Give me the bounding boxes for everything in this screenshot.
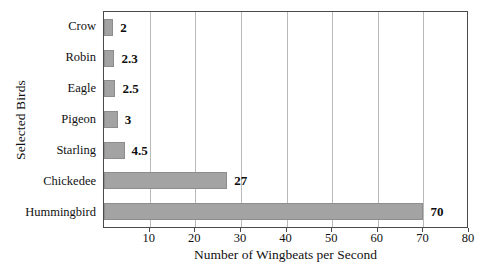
category-label: Starling [56, 144, 96, 157]
category-label: Hummingbird [25, 206, 96, 219]
x-tick-label: 80 [462, 232, 475, 245]
bar-value-label: 2.3 [121, 52, 137, 65]
x-tick-label: 20 [188, 232, 201, 245]
bar [104, 19, 113, 36]
category-label-row: Chickedee [0, 166, 100, 197]
category-label-row: Crow [0, 11, 100, 42]
category-label-row: Robin [0, 42, 100, 73]
bar-row: 2.5 [104, 73, 467, 104]
bar-row: 27 [104, 166, 467, 197]
bar [104, 80, 115, 97]
bar [104, 172, 227, 189]
category-label: Pigeon [61, 113, 96, 126]
bar [104, 203, 423, 220]
bar-value-label: 3 [125, 113, 132, 126]
category-label: Robin [65, 51, 96, 64]
x-axis-ticks: 1020304050607080 [103, 228, 468, 246]
bar-value-label: 27 [234, 174, 247, 187]
bar-value-label: 4.5 [132, 144, 148, 157]
bar [104, 111, 118, 128]
bar-value-label: 2.5 [122, 82, 138, 95]
bars-layer: 22.32.534.52770 [104, 12, 467, 227]
bar [104, 142, 125, 159]
category-label: Eagle [68, 82, 96, 95]
bar-value-label: 70 [430, 205, 443, 218]
x-tick-label: 60 [371, 232, 384, 245]
bar [104, 50, 114, 67]
bar-row: 70 [104, 196, 467, 227]
category-label-row: Eagle [0, 73, 100, 104]
bar-row: 2.3 [104, 43, 467, 74]
x-tick-label: 50 [325, 232, 338, 245]
bar-value-label: 2 [120, 21, 127, 34]
x-axis-title: Number of Wingbeats per Second [103, 247, 468, 263]
category-label: Crow [68, 20, 96, 33]
x-tick-label: 30 [234, 232, 247, 245]
plot-area: 22.32.534.52770 [103, 11, 468, 228]
bar-row: 4.5 [104, 135, 467, 166]
category-axis-labels: CrowRobinEaglePigeonStarlingChickedeeHum… [0, 11, 100, 228]
bar-row: 2 [104, 12, 467, 43]
category-label: Chickedee [43, 175, 96, 188]
category-label-row: Hummingbird [0, 197, 100, 228]
bar-chart: Selected Birds CrowRobinEaglePigeonStarl… [0, 0, 486, 270]
category-label-row: Starling [0, 135, 100, 166]
x-tick-label: 10 [142, 232, 155, 245]
x-tick-label: 70 [416, 232, 429, 245]
category-label-row: Pigeon [0, 104, 100, 135]
x-tick-label: 40 [279, 232, 292, 245]
bar-row: 3 [104, 104, 467, 135]
